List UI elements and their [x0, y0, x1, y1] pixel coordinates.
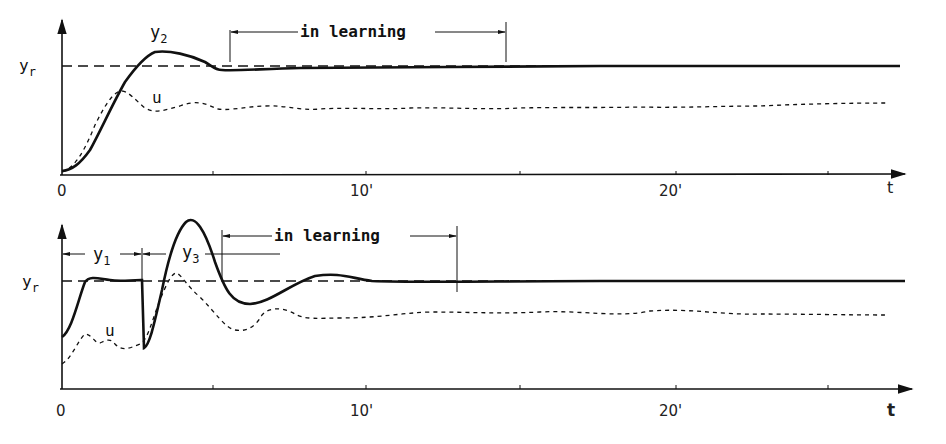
top-chart — [60, 20, 905, 175]
bottom-tick-0: 0 — [56, 402, 66, 420]
bottom-y1-label: y1 — [92, 244, 111, 264]
bottom-u-curve — [62, 273, 885, 364]
top-tick-20: 20' — [659, 182, 682, 200]
chart-canvas — [0, 0, 946, 444]
top-y2-curve — [62, 52, 900, 171]
top-axis-t-label: t — [887, 178, 893, 197]
top-tick-0: 0 — [57, 182, 67, 200]
bottom-y-curve — [62, 220, 905, 348]
top-tick-10: 10' — [350, 182, 373, 200]
top-yr-label: yr — [19, 56, 36, 75]
bottom-yr-label: yr — [22, 272, 39, 291]
bottom-y3-label: y3 — [182, 242, 199, 262]
bottom-in-learning-annotation: in learning — [272, 226, 382, 245]
top-u-curve — [62, 91, 888, 172]
top-u-label: u — [152, 88, 162, 107]
top-in-learning-annotation: in learning — [298, 22, 408, 41]
bottom-tick-10: 10' — [350, 402, 373, 420]
bottom-axis-t-label: t — [887, 400, 895, 420]
top-x-axis — [60, 174, 905, 175]
top-y2-label: y2 — [150, 22, 167, 42]
bottom-u-label: u — [105, 321, 115, 340]
bottom-tick-20: 20' — [659, 402, 682, 420]
